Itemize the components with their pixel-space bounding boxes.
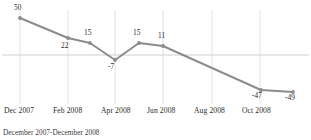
data-label: 50 bbox=[14, 3, 21, 12]
data-label: -49 bbox=[285, 93, 295, 102]
x-axis-tick-labels: Dec 2007 Feb 2008 Apr 2008 Jun 2008 Aug … bbox=[0, 106, 311, 120]
line-chart: 50 22 15 -7 15 11 -47 -49 Dec 2007 Feb 2… bbox=[0, 0, 311, 140]
data-label: 15 bbox=[133, 28, 140, 37]
data-label: 22 bbox=[61, 41, 68, 50]
vertical-gridlines bbox=[20, 10, 260, 104]
data-point-marker bbox=[66, 36, 70, 40]
x-axis-tick: Jun 2008 bbox=[147, 106, 175, 115]
data-label: -7 bbox=[108, 62, 114, 71]
x-axis-tick: Aug 2008 bbox=[194, 106, 225, 115]
data-point-marker bbox=[88, 41, 92, 45]
data-label: 11 bbox=[158, 31, 165, 40]
chart-plot-area bbox=[0, 0, 311, 104]
data-point-marker bbox=[137, 41, 141, 45]
x-axis-tick: Apr 2008 bbox=[101, 106, 131, 115]
data-label: 15 bbox=[84, 28, 91, 37]
data-label: -47 bbox=[252, 91, 262, 100]
x-axis-tick: Feb 2008 bbox=[53, 106, 82, 115]
data-point-marker bbox=[161, 44, 165, 48]
x-axis-tick: Oct 2008 bbox=[242, 106, 271, 115]
chart-caption: December 2007-December 2008 bbox=[3, 128, 100, 137]
data-point-marker bbox=[18, 16, 22, 20]
x-axis-tick: Dec 2007 bbox=[4, 106, 34, 115]
